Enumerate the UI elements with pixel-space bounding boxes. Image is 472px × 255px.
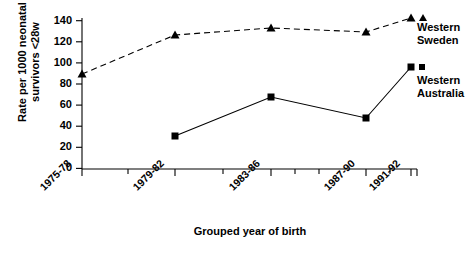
y-tick-label: 20 <box>38 141 72 152</box>
legend-triangle-marker-icon <box>419 14 427 21</box>
data-point-marker <box>363 115 370 122</box>
y-tick-label: 40 <box>38 120 72 131</box>
legend-label-line-2: Australia <box>417 87 464 100</box>
legend-label-western-australia: Western Australia <box>417 74 464 100</box>
data-point-marker <box>407 14 416 22</box>
series-line-western-sweden <box>82 18 411 74</box>
data-point-marker <box>78 70 87 78</box>
y-tick-marks <box>76 21 82 169</box>
data-point-marker <box>172 133 179 140</box>
y-axis-title-line-2: survivors <28w <box>29 0 42 142</box>
y-tick-label: 60 <box>38 99 72 110</box>
chart-figure: 140 120 100 80 60 40 20 0 1975-78 1979-8… <box>0 0 472 255</box>
y-axis-title: Rate per 1000 neonatal survivors <28w <box>16 0 42 142</box>
y-tick-label: 100 <box>38 57 72 68</box>
data-point-marker <box>408 64 415 71</box>
legend-label-line-2: Sweden <box>417 34 460 47</box>
y-tick-label: 140 <box>38 15 72 26</box>
x-axis-title: Grouped year of birth <box>135 225 365 237</box>
legend-square-marker-icon <box>419 64 425 70</box>
series-line-western-australia <box>175 67 411 136</box>
y-tick-label: 120 <box>38 36 72 47</box>
legend-label-line-1: Western <box>417 21 460 34</box>
legend-label-line-1: Western <box>417 74 464 87</box>
y-axis-title-line-1: Rate per 1000 neonatal <box>16 0 29 142</box>
y-tick-label: 80 <box>38 78 72 89</box>
data-point-marker <box>267 24 276 32</box>
series-markers-western-sweden <box>78 14 416 78</box>
legend-label-western-sweden: Western Sweden <box>417 21 460 47</box>
data-point-marker <box>268 94 275 101</box>
